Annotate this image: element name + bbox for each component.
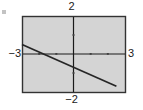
speck-artifact [2,10,6,14]
window-label-ymax: 2 [0,1,143,12]
window-label-xmin: −3 [2,48,21,59]
window-label-xmax: 3 [128,48,142,59]
graph-figure: 2 −2 −3 3 [0,0,143,110]
window-label-ymin: −2 [0,94,143,105]
